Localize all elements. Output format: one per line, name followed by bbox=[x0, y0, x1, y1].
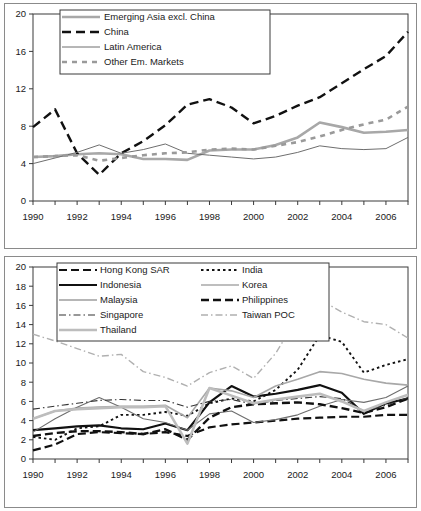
x-tick-label: 1992 bbox=[67, 469, 88, 480]
legend-label: Philippines bbox=[242, 294, 288, 305]
y-tick-label: 6 bbox=[21, 396, 26, 407]
y-tick-label: 18 bbox=[15, 281, 26, 292]
legend-label: Indonesia bbox=[100, 279, 142, 290]
x-tick-label: 1994 bbox=[111, 469, 132, 480]
chart-panel-bottom: 0246810121416182019901992199419961998200… bbox=[4, 256, 417, 508]
legend-label: Emerging Asia excl. China bbox=[104, 11, 216, 22]
legend-label: Korea bbox=[242, 279, 268, 290]
legend-label: Other Em. Markets bbox=[104, 56, 184, 67]
y-tick-label: 20 bbox=[15, 8, 26, 19]
x-tick-label: 1990 bbox=[22, 469, 43, 480]
y-tick-label: 8 bbox=[21, 377, 26, 388]
y-tick-label: 12 bbox=[15, 83, 26, 94]
x-tick-label: 1996 bbox=[155, 211, 176, 222]
legend-label: India bbox=[242, 264, 263, 275]
y-tick-label: 2 bbox=[21, 434, 26, 445]
legend-label: Malaysia bbox=[100, 294, 138, 305]
x-tick-label: 2000 bbox=[243, 211, 264, 222]
y-tick-label: 4 bbox=[21, 415, 26, 426]
legend-label: Hong Kong SAR bbox=[100, 264, 170, 275]
x-tick-label: 1992 bbox=[67, 211, 88, 222]
x-tick-label: 1994 bbox=[111, 211, 132, 222]
x-tick-label: 2004 bbox=[331, 211, 352, 222]
chart-panel-top: 0481216201990199219941996199820002002200… bbox=[4, 3, 417, 249]
legend-label: Thailand bbox=[100, 324, 136, 335]
y-tick-label: 16 bbox=[15, 300, 26, 311]
y-tick-label: 12 bbox=[15, 338, 26, 349]
y-tick-label: 10 bbox=[15, 357, 26, 368]
top-line-chart: 0481216201990199219941996199820002002200… bbox=[5, 4, 416, 248]
legend-label: China bbox=[104, 26, 130, 37]
x-tick-label: 2002 bbox=[287, 469, 308, 480]
x-tick-label: 1996 bbox=[155, 469, 176, 480]
legend-label: Latin America bbox=[104, 41, 162, 52]
series-line-india bbox=[33, 335, 408, 440]
series-line-hong-kong-sar bbox=[33, 415, 408, 451]
y-tick-label: 0 bbox=[21, 195, 26, 206]
y-tick-label: 14 bbox=[15, 319, 26, 330]
x-tick-label: 2006 bbox=[375, 211, 396, 222]
y-tick-label: 0 bbox=[21, 453, 26, 464]
y-tick-label: 8 bbox=[21, 121, 26, 132]
x-tick-label: 1998 bbox=[199, 469, 220, 480]
y-tick-label: 16 bbox=[15, 46, 26, 57]
bottom-line-chart: 0246810121416182019901992199419961998200… bbox=[5, 257, 416, 507]
legend-label: Singapore bbox=[100, 309, 143, 320]
x-tick-label: 2000 bbox=[243, 469, 264, 480]
figure-container: 0481216201990199219941996199820002002200… bbox=[0, 0, 421, 511]
x-tick-label: 1990 bbox=[22, 211, 43, 222]
x-tick-label: 1998 bbox=[199, 211, 220, 222]
x-tick-label: 2006 bbox=[375, 469, 396, 480]
y-tick-label: 4 bbox=[21, 158, 26, 169]
y-tick-label: 20 bbox=[15, 261, 26, 272]
x-tick-label: 2002 bbox=[287, 211, 308, 222]
x-tick-label: 2004 bbox=[331, 469, 352, 480]
legend-label: Taiwan POC bbox=[242, 309, 295, 320]
